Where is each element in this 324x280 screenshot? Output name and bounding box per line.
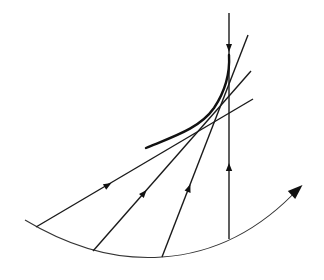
ray-1-arrow-icon	[103, 183, 112, 190]
envelope-curve	[146, 55, 229, 148]
ray-2	[93, 71, 251, 251]
ray-envelope-diagram	[0, 0, 324, 280]
ray-1	[36, 99, 253, 227]
down-arrow-icon	[226, 44, 232, 52]
ray-3	[162, 35, 248, 257]
ray-4-arrow-icon	[226, 163, 232, 171]
rays-group	[36, 13, 253, 257]
base-arc	[25, 187, 300, 258]
ray-3-arrow-icon	[185, 184, 191, 193]
diagram-canvas	[0, 0, 324, 280]
